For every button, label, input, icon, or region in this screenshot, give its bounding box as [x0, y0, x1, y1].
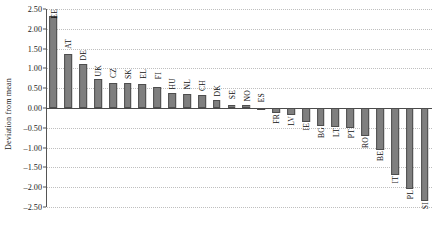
- bar-slot: RO: [358, 9, 373, 207]
- bar[interactable]: [346, 108, 354, 128]
- bar-category-label: BE: [376, 151, 385, 161]
- y-tick-label: 2.50: [28, 5, 42, 14]
- bar[interactable]: [332, 108, 340, 127]
- bar-slot: HU: [165, 9, 180, 207]
- y-tick-label: –0.50: [24, 123, 42, 132]
- bar-category-label: SE: [228, 90, 237, 99]
- bar-slot: UK: [91, 9, 106, 207]
- bar-slot: PL: [402, 9, 417, 207]
- bar[interactable]: [94, 79, 102, 108]
- bar-slot: FI: [150, 9, 165, 207]
- bar-slot: SK: [120, 9, 135, 207]
- gridline: [47, 207, 432, 208]
- bar[interactable]: [198, 95, 206, 108]
- bar[interactable]: [317, 108, 325, 126]
- bar-slot: EL: [135, 9, 150, 207]
- bar-category-label: FI: [154, 72, 163, 79]
- bar-slot: IE: [298, 9, 313, 207]
- y-axis-tick-labels: 2.502.001.501.000.500.00–0.50–1.00–1.50–…: [14, 9, 42, 207]
- y-tick-label: –1.50: [24, 163, 42, 172]
- bar[interactable]: [64, 54, 72, 108]
- bar-slot: CZ: [105, 9, 120, 207]
- bar-category-label: RO: [361, 137, 370, 148]
- bar-category-label: PL: [406, 190, 415, 199]
- bar-category-label: CZ: [109, 68, 118, 78]
- y-tick-label: –1.00: [24, 143, 42, 152]
- bar-category-label: LV: [287, 116, 296, 126]
- bar[interactable]: [124, 83, 132, 108]
- bar-category-label: FR: [272, 114, 281, 124]
- bar-category-label: IT: [391, 176, 400, 184]
- bar[interactable]: [421, 108, 429, 201]
- bar-slot: FR: [269, 9, 284, 207]
- bar-category-label: NL: [183, 79, 192, 90]
- bar-category-label: HU: [168, 78, 177, 89]
- bar[interactable]: [391, 108, 399, 175]
- bar-category-label: EE: [50, 9, 59, 19]
- bar[interactable]: [109, 83, 117, 108]
- bar[interactable]: [79, 64, 87, 108]
- bar[interactable]: [302, 108, 310, 122]
- bar-slot: SI: [417, 9, 432, 207]
- bar[interactable]: [168, 93, 176, 108]
- bar[interactable]: [139, 84, 147, 108]
- bar-category-label: LT: [332, 128, 341, 137]
- bar-slot: AT: [61, 9, 76, 207]
- bar-slot: LT: [328, 9, 343, 207]
- deviation-bar-chart: Deviation from mean 2.502.001.501.000.50…: [0, 0, 437, 227]
- bar-slot: NO: [239, 9, 254, 207]
- y-tick-label: –2.00: [24, 183, 42, 192]
- plot-area: EEATDEUKCZSKELFIHUNLCHDKSENOESFRLVIEBGLT…: [46, 9, 432, 207]
- bar-slot: SE: [224, 9, 239, 207]
- bar-category-label: EL: [139, 69, 148, 79]
- bar-slot: ES: [254, 9, 269, 207]
- bar[interactable]: [243, 105, 251, 108]
- y-tick-label: 1.00: [28, 64, 42, 73]
- bar-category-label: PT: [347, 129, 356, 138]
- bar-category-label: DK: [213, 85, 222, 96]
- bar-slot: LV: [284, 9, 299, 207]
- bar[interactable]: [361, 108, 369, 136]
- bar-category-label: IE: [302, 123, 311, 131]
- bar[interactable]: [376, 108, 384, 150]
- bar[interactable]: [406, 108, 414, 189]
- bar-category-label: UK: [94, 65, 103, 76]
- bar-slot: NL: [180, 9, 195, 207]
- bar-slot: EE: [46, 9, 61, 207]
- bar-slot: BG: [313, 9, 328, 207]
- y-tick-label: –2.50: [24, 203, 42, 212]
- y-tick-label: 0.50: [28, 84, 42, 93]
- bar[interactable]: [272, 108, 280, 113]
- bar[interactable]: [287, 108, 295, 115]
- bar-slot: IT: [387, 9, 402, 207]
- bar-category-label: NO: [243, 90, 252, 101]
- bar-category-label: BG: [317, 127, 326, 138]
- y-axis-title-text: Deviation from mean: [4, 78, 13, 150]
- bar[interactable]: [228, 105, 236, 108]
- bar-category-label: DE: [79, 50, 88, 61]
- y-tick-label: 1.50: [28, 44, 42, 53]
- y-tick-label: 0.00: [28, 104, 42, 113]
- bar[interactable]: [183, 94, 191, 108]
- bar-slot: DK: [209, 9, 224, 207]
- bar-category-label: CH: [198, 80, 207, 91]
- bar[interactable]: [153, 87, 161, 108]
- y-tick-label: 2.00: [28, 24, 42, 33]
- bar[interactable]: [213, 100, 221, 108]
- bar-slot: CH: [194, 9, 209, 207]
- bars-container: EEATDEUKCZSKELFIHUNLCHDKSENOESFRLVIEBGLT…: [46, 9, 432, 207]
- bar[interactable]: [50, 16, 58, 108]
- bar[interactable]: [257, 108, 265, 110]
- bar-slot: BE: [373, 9, 388, 207]
- bar-category-label: AT: [64, 39, 73, 49]
- bar-slot: DE: [76, 9, 91, 207]
- bar-category-label: SK: [124, 69, 133, 79]
- bar-category-label: SI: [421, 202, 430, 209]
- bar-category-label: ES: [257, 93, 266, 102]
- bar-slot: PT: [343, 9, 358, 207]
